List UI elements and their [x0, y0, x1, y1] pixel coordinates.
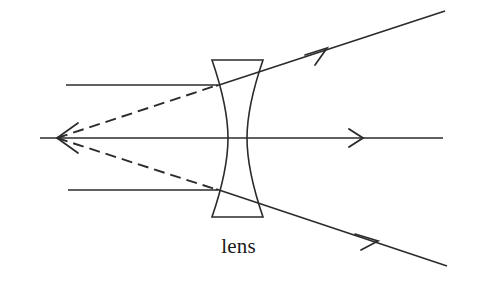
upper-virtual-ray	[57, 85, 218, 138]
lower-virtual-ray	[57, 138, 218, 190]
lens-label: lens	[0, 234, 477, 259]
upper-refracted-ray	[216, 11, 445, 86]
ray-diagram-figure: lens	[0, 0, 477, 282]
